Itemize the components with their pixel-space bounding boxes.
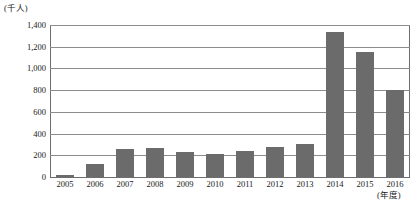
plot-area bbox=[50, 25, 410, 177]
x-tick-label: 2006 bbox=[87, 179, 104, 190]
y-tick-label: 400 bbox=[2, 129, 46, 138]
bar-slot bbox=[380, 25, 410, 177]
x-tick-label: 2005 bbox=[57, 179, 74, 190]
bar bbox=[176, 152, 194, 177]
bar-slot bbox=[50, 25, 80, 177]
x-tick-label: 2016 bbox=[387, 179, 404, 190]
x-tick-label: 2011 bbox=[237, 179, 254, 190]
x-tick-label: 2009 bbox=[177, 179, 194, 190]
bar-slot bbox=[350, 25, 380, 177]
bar-chart: (千人) 02004006008001,0001,2001,400 200520… bbox=[0, 0, 420, 218]
bar-slot bbox=[140, 25, 170, 177]
bar-slot bbox=[200, 25, 230, 177]
y-tick-label: 1,400 bbox=[2, 21, 46, 30]
bar bbox=[236, 151, 254, 177]
x-tick-label: 2015 bbox=[357, 179, 374, 190]
axis-baseline bbox=[50, 177, 410, 178]
bar bbox=[56, 175, 74, 177]
bar bbox=[116, 149, 134, 177]
x-tick-label: 2013 bbox=[297, 179, 314, 190]
y-tick-label: 600 bbox=[2, 107, 46, 116]
y-tick-label: 1,000 bbox=[2, 64, 46, 73]
y-tick-label: 800 bbox=[2, 86, 46, 95]
x-tick-label: 2008 bbox=[147, 179, 164, 190]
y-tick-label: 200 bbox=[2, 151, 46, 160]
bar bbox=[326, 32, 344, 177]
bar-slot bbox=[80, 25, 110, 177]
bar-slot bbox=[290, 25, 320, 177]
bar bbox=[266, 147, 284, 177]
bar-slot bbox=[170, 25, 200, 177]
bar-slot bbox=[260, 25, 290, 177]
x-axis-unit-label: (年度) bbox=[377, 190, 401, 200]
x-tick-label: 2012 bbox=[267, 179, 284, 190]
bar bbox=[356, 52, 374, 177]
bar-slot bbox=[230, 25, 260, 177]
bar-slot bbox=[320, 25, 350, 177]
y-tick-label: 0 bbox=[2, 173, 46, 182]
y-axis-tick-labels: 02004006008001,0001,2001,400 bbox=[0, 25, 46, 177]
bar bbox=[296, 144, 314, 177]
x-tick-label: 2007 bbox=[117, 179, 134, 190]
bar bbox=[146, 148, 164, 177]
bar-slot bbox=[110, 25, 140, 177]
bar bbox=[86, 164, 104, 177]
x-tick-label: 2014 bbox=[327, 179, 344, 190]
y-tick-label: 1,200 bbox=[2, 42, 46, 51]
x-tick-label: 2010 bbox=[207, 179, 224, 190]
x-axis-tick-labels: 2005200620072008200920102011201220132014… bbox=[50, 179, 410, 195]
bar bbox=[386, 90, 404, 177]
bar bbox=[206, 154, 224, 177]
y-axis-unit-label: (千人) bbox=[4, 1, 28, 13]
